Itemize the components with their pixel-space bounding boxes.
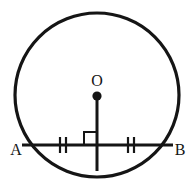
geometry-figure: O A B bbox=[0, 0, 195, 193]
right-angle-marker-icon bbox=[84, 132, 97, 145]
geometry-canvas: O A B bbox=[0, 0, 195, 193]
label-point-a: A bbox=[10, 141, 22, 158]
center-point-dot bbox=[92, 91, 101, 100]
label-center-o: O bbox=[91, 72, 103, 89]
label-point-b: B bbox=[175, 141, 186, 158]
